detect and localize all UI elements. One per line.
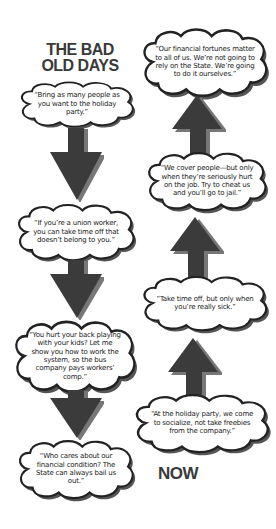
bad-quote-4: “Who cares about our financial condition… — [14, 438, 138, 500]
bad-cloud-3: “You hurt your back playing with your ki… — [10, 318, 140, 394]
now-cloud-4: “Our financial fortunes matter to all of… — [138, 26, 272, 98]
arrow-down-2 — [50, 260, 104, 320]
bad-cloud-1: “Bring as many people as you want to the… — [16, 80, 138, 128]
now-quote-4: “Our financial fortunes matter to all of… — [138, 26, 272, 98]
down-arrow-icon — [50, 128, 104, 202]
end-label: NOW — [150, 465, 206, 482]
down-arrow-icon — [50, 390, 104, 440]
up-arrow-icon — [170, 217, 224, 279]
now-quote-2: “Take time off, but only when you’re rea… — [138, 274, 272, 332]
bad-cloud-2: “If you’re a union worker, you can take … — [13, 202, 139, 262]
down-arrow-icon — [50, 260, 104, 320]
now-cloud-1: “At the holiday party, we come to social… — [130, 392, 274, 454]
bad-cloud-4: “Who cares about our financial condition… — [14, 438, 138, 500]
up-arrow-icon — [172, 95, 226, 157]
start-label-line2: OLD DAYS — [34, 58, 126, 74]
arrow-up-2 — [170, 217, 224, 279]
now-quote-3: “We cover people—but only when they’re s… — [143, 150, 271, 212]
now-cloud-2: “Take time off, but only when you’re rea… — [138, 274, 272, 332]
start-label: THE BAD OLD DAYS — [34, 42, 126, 74]
arrow-down-1 — [50, 128, 104, 202]
start-label-line1: THE BAD — [34, 42, 126, 58]
bad-quote-2: “If you’re a union worker, you can take … — [13, 202, 139, 262]
bad-quote-1: “Bring as many people as you want to the… — [16, 80, 138, 128]
arrow-up-3 — [172, 95, 226, 157]
up-arrow-icon — [168, 338, 222, 400]
now-quote-1: “At the holiday party, we come to social… — [130, 392, 274, 454]
now-cloud-3: “We cover people—but only when they’re s… — [143, 150, 271, 212]
arrow-down-3 — [50, 390, 104, 440]
arrow-up-1 — [168, 338, 222, 400]
bad-quote-3: “You hurt your back playing with your ki… — [10, 318, 140, 394]
